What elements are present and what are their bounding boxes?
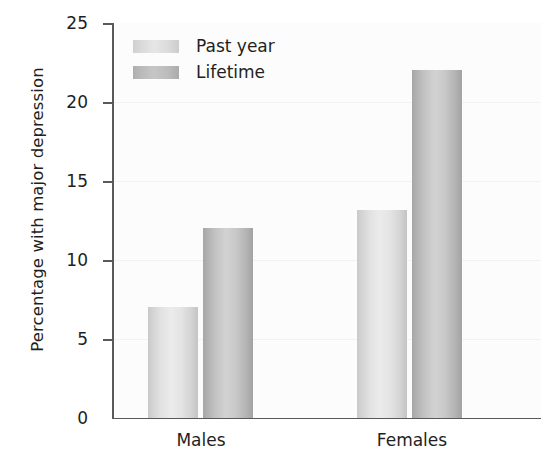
chart-legend: Past year Lifetime [133,33,275,85]
x-category-label-males: Males [176,430,225,450]
legend-swatch-past-year-icon [133,40,179,53]
y-tick-mark-20 [103,102,113,104]
gridline-15 [114,181,541,182]
y-tick-label-10: 10 [42,252,88,269]
legend-item-past-year: Past year [133,33,275,59]
gridline-10 [114,260,541,261]
y-tick-label-0: 0 [42,410,88,427]
bar-males-past-year [148,307,198,418]
legend-item-lifetime: Lifetime [133,59,275,85]
gridline-20 [114,102,541,103]
y-tick-label-5: 5 [42,331,88,348]
y-tick-mark-25 [103,23,113,25]
legend-label-past-year: Past year [196,36,275,56]
bar-chart: Percentage with major depression 25 20 1… [0,0,555,472]
y-axis-tick-labels: 25 20 15 10 5 0 [42,0,88,472]
y-tick-mark-5 [103,339,113,341]
legend-label-lifetime: Lifetime [196,62,265,82]
y-tick-label-15: 15 [42,173,88,190]
bar-females-past-year [357,210,407,418]
y-tick-mark-10 [103,260,113,262]
legend-swatch-lifetime-icon [133,66,179,79]
bar-females-lifetime [412,70,462,418]
y-tick-label-25: 25 [42,15,88,32]
y-tick-label-20: 20 [42,94,88,111]
y-tick-mark-15 [103,181,113,183]
x-category-label-females: Females [377,430,447,450]
bar-males-lifetime [203,228,253,418]
